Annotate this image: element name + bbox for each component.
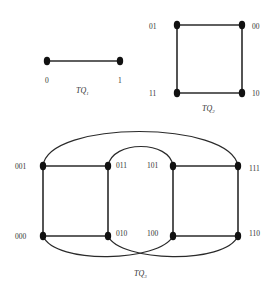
tq3-graph: 001 011 101 111 000 010 100 110 TQ3: [15, 132, 260, 279]
tq2-graph: 01 00 11 10 TQ2: [149, 21, 260, 114]
tq3-edge-001-111: [43, 132, 238, 167]
tq1-node-0: [44, 57, 50, 65]
tq3-node-101: [170, 162, 176, 170]
tq2-node-label-01: 01: [149, 22, 157, 31]
tq2-node-label-00: 00: [252, 22, 260, 31]
tq2-node-label-11: 11: [149, 89, 156, 98]
tq3-node-110: [235, 232, 241, 240]
tq2-node-10: [239, 89, 245, 97]
tq3-node-label-001: 001: [15, 162, 27, 171]
tq2-node-00: [239, 21, 245, 29]
tq3-node-111: [235, 162, 241, 170]
tq3-node-001: [40, 162, 46, 170]
tq1-node-1: [117, 57, 123, 65]
tq1-caption: TQ1: [76, 86, 89, 96]
tq2-caption: TQ2: [202, 104, 215, 114]
twisted-hypercube-diagrams: 0 1 TQ1 01 00 11 10 TQ2: [0, 0, 277, 291]
tq3-node-label-100: 100: [147, 229, 159, 238]
tq3-node-100: [170, 232, 176, 240]
tq3-node-011: [105, 162, 111, 170]
tq1-node-label-1: 1: [118, 76, 122, 85]
tq1-node-label-0: 0: [45, 76, 49, 85]
tq3-node-010: [105, 232, 111, 240]
tq3-node-label-110: 110: [249, 229, 260, 238]
tq3-node-label-101: 101: [147, 161, 159, 170]
tq2-node-01: [174, 21, 180, 29]
tq2-node-label-10: 10: [252, 89, 260, 98]
tq3-node-label-111: 111: [249, 164, 260, 173]
tq3-node-000: [40, 232, 46, 240]
tq1-graph: 0 1 TQ1: [44, 57, 123, 96]
tq3-node-label-000: 000: [15, 232, 27, 241]
tq2-node-11: [174, 89, 180, 97]
tq3-node-label-011: 011: [116, 161, 127, 170]
tq3-node-label-010: 010: [116, 229, 128, 238]
tq3-caption: TQ3: [134, 269, 147, 279]
